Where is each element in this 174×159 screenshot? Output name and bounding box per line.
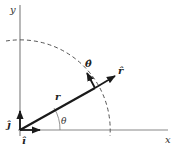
y-axis-label: y: [9, 4, 16, 15]
r-label: r: [55, 91, 61, 102]
r-hat-label: r̂: [118, 65, 124, 76]
theta-hat-label: θ̂: [85, 58, 92, 69]
j-hat-label: ĵ: [5, 119, 11, 130]
r-hat-vector: [95, 76, 115, 88]
polar-coordinates-diagram: y x r r̂ θ̂ θ ĵ î: [0, 0, 174, 159]
x-axis-label: x: [165, 134, 171, 145]
i-hat-label: î: [22, 135, 27, 146]
theta-hat-vector: [87, 73, 95, 88]
theta-label: θ: [61, 116, 67, 126]
